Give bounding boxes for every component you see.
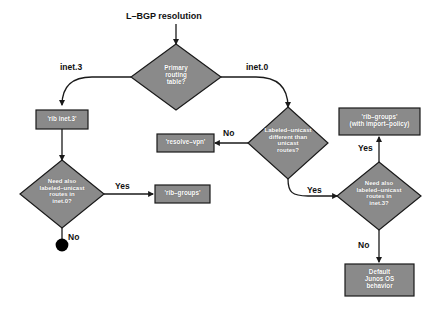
node-resolve-vpn[interactable] [157, 134, 214, 152]
node-need-labeled-inet3[interactable] [337, 162, 421, 230]
edge-label-inet0: inet.0 [246, 62, 268, 72]
edge-inet0 [221, 77, 288, 107]
node-labeled-different[interactable] [248, 107, 328, 179]
node-default-junos[interactable] [345, 264, 414, 296]
edge-label-need0-yes: Yes [115, 181, 130, 191]
flowchart-canvas: L–BGP resolution Primary routing table? … [0, 0, 435, 311]
edge-label-diff-no: No [223, 128, 234, 138]
edge-inet3 [62, 77, 131, 105]
node-rib-groups[interactable] [155, 185, 210, 203]
terminator-dot [56, 239, 69, 252]
node-need-labeled-inet0[interactable] [20, 160, 104, 228]
node-primary-routing-table[interactable] [131, 44, 221, 110]
edge-label-diff-yes: Yes [307, 185, 322, 195]
node-rib-inet3[interactable] [36, 110, 88, 129]
edge-label-need3-no: No [358, 240, 369, 250]
edge-label-need3-yes: Yes [358, 143, 373, 153]
node-rib-groups-import[interactable] [339, 108, 420, 135]
edge-label-need0-no: No [68, 232, 79, 242]
edge-label-inet3: inet.3 [60, 62, 82, 72]
start-label: L–BGP resolution [126, 11, 202, 21]
flowchart-connectors [0, 0, 435, 311]
